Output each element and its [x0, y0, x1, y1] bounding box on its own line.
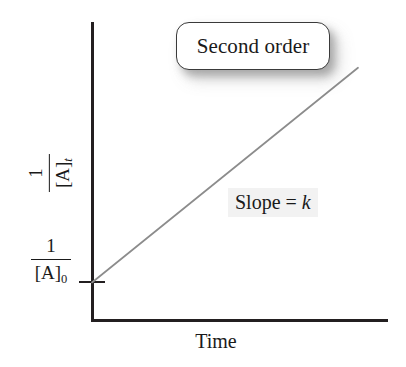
order-callout-box: Second order — [176, 22, 330, 70]
y-axis-title-rotated: 1 [A]t — [26, 154, 76, 192]
slope-annotation: Slope = k — [228, 188, 318, 217]
y-intercept-fraction-bar — [31, 259, 72, 261]
y-axis-intercept-tick — [79, 281, 105, 283]
second-order-kinetics-figure: Second order Slope = k 1 [A]t 1 [A]0 Tim… — [0, 0, 406, 367]
y-intercept-denominator-subscript: 0 — [61, 272, 67, 286]
y-axis-title: 1 [A]t — [17, 135, 85, 211]
second-order-line — [92, 68, 358, 283]
slope-annotation-prefix: Slope = — [235, 191, 302, 213]
y-intercept-denominator: [A]0 — [31, 262, 72, 286]
y-intercept-denominator-base: [A] — [35, 262, 61, 283]
y-axis-title-denominator-subscript: t — [62, 158, 76, 161]
slope-annotation-symbol: k — [302, 191, 311, 213]
y-axis-title-fraction: 1 [A]t — [26, 154, 76, 192]
y-axis-title-fraction-bar — [48, 154, 50, 192]
x-axis-title: Time — [91, 330, 341, 353]
y-intercept-fraction: 1 [A]0 — [31, 236, 72, 286]
x-axis-line — [91, 319, 388, 322]
y-intercept-numerator: 1 — [31, 236, 72, 258]
order-callout-label: Second order — [197, 34, 310, 59]
y-axis-title-numerator: 1 — [26, 154, 48, 192]
y-intercept-label: 1 [A]0 — [24, 236, 78, 286]
y-axis-title-denominator-base: [A] — [52, 162, 73, 188]
y-axis-line — [91, 22, 94, 322]
y-axis-title-denominator: [A]t — [52, 154, 76, 192]
